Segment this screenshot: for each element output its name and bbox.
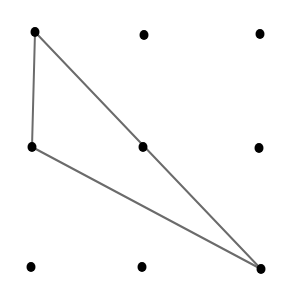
triangle-edge-r0c0-r1c0: [32, 32, 35, 147]
grid-dot-r1c1: [139, 142, 148, 152]
grid-dot-r2c2: [257, 264, 266, 274]
grid-dot-r1c2: [255, 143, 264, 153]
grid-dot-r0c0: [31, 27, 40, 37]
grid-dot-r0c1: [140, 30, 149, 40]
triangle-edges: [32, 32, 261, 269]
grid-dot-r1c0: [28, 142, 37, 152]
triangle-edge-r1c0-r2c2: [32, 147, 261, 269]
grid-dot-r0c2: [256, 29, 265, 39]
grid-dot-r2c0: [27, 262, 36, 272]
dot-grid-diagram: [0, 0, 292, 284]
triangle-edge-r0c0-r2c2: [35, 32, 261, 269]
grid-dot-r2c1: [138, 262, 147, 272]
